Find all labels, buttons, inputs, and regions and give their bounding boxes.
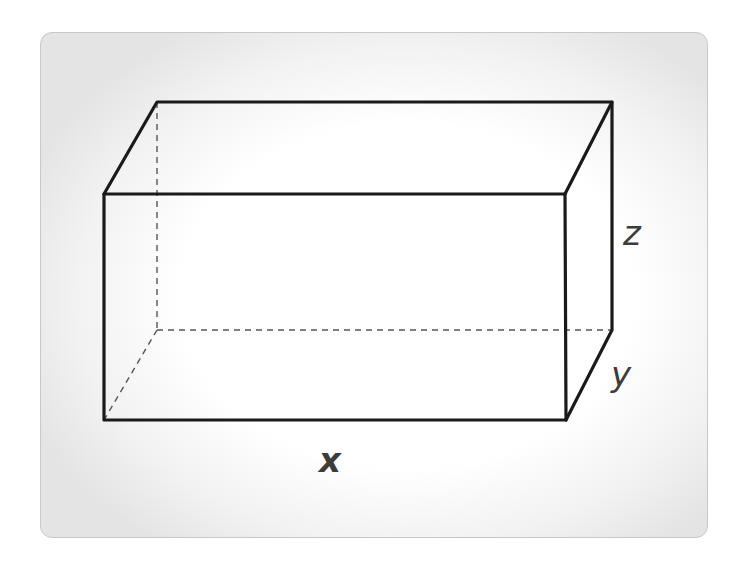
label-z: z: [622, 213, 642, 253]
diagram-stage: x z y: [0, 0, 747, 567]
rectangular-prism-diagram: x z y: [0, 0, 747, 567]
label-x: x: [317, 440, 342, 480]
top-face-back-edges: [104, 102, 612, 194]
hidden-edges: [104, 102, 612, 420]
hidden-edge-bottom-left-depth: [104, 330, 157, 420]
label-y: y: [610, 354, 632, 394]
visible-edges: [104, 102, 612, 420]
front-face: [104, 194, 566, 420]
